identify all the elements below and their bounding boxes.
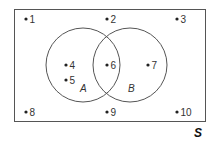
point-label: 9 xyxy=(111,107,117,118)
point-label: 6 xyxy=(111,60,117,71)
point-label: 10 xyxy=(181,107,193,118)
point-dot-icon xyxy=(105,110,108,113)
point-label: 5 xyxy=(70,75,76,86)
venn-diagram: A B 12345678910 S xyxy=(0,0,211,147)
point-8: 8 xyxy=(24,107,35,118)
point-9: 9 xyxy=(105,107,116,118)
point-2: 2 xyxy=(105,14,116,25)
point-dot-icon xyxy=(64,78,67,81)
point-dot-icon xyxy=(175,17,178,20)
point-1: 1 xyxy=(24,14,35,25)
point-dot-icon xyxy=(175,110,178,113)
point-dot-icon xyxy=(64,63,67,66)
point-10: 10 xyxy=(175,107,192,118)
point-dot-icon xyxy=(24,110,27,113)
point-label: 4 xyxy=(70,60,76,71)
point-dot-icon xyxy=(146,63,149,66)
point-5: 5 xyxy=(64,75,75,86)
set-b-label: B xyxy=(128,83,135,94)
point-label: 3 xyxy=(181,14,187,25)
point-label: 1 xyxy=(30,14,36,25)
point-7: 7 xyxy=(146,60,157,71)
universe-label: S xyxy=(194,126,202,140)
point-label: 8 xyxy=(30,107,36,118)
point-dot-icon xyxy=(105,63,108,66)
point-6: 6 xyxy=(105,60,116,71)
point-3: 3 xyxy=(175,14,186,25)
point-dot-icon xyxy=(24,17,27,20)
point-4: 4 xyxy=(64,60,75,71)
point-dot-icon xyxy=(105,17,108,20)
set-a-label: A xyxy=(79,83,87,94)
point-label: 2 xyxy=(111,14,117,25)
point-label: 7 xyxy=(152,60,158,71)
